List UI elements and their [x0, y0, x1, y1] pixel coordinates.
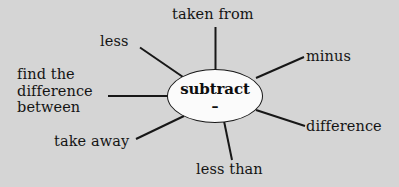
branch-label-taken-from: taken from [172, 6, 254, 22]
branch-label-difference: difference [306, 118, 382, 134]
connector-less-than [224, 121, 232, 160]
center-node: subtract – [167, 69, 263, 123]
branch-label-minus: minus [306, 48, 351, 64]
minus-sign-symbol: – [212, 100, 219, 112]
branch-label-less: less [100, 33, 129, 49]
connector-minus [256, 57, 304, 78]
branch-label-take-away: take away [54, 133, 129, 149]
center-word: subtract [180, 81, 250, 97]
branch-label-find-the-difference-between: find the difference between [17, 66, 112, 116]
connector-difference [256, 110, 305, 126]
center-text-wrap: subtract – [167, 69, 263, 123]
word-web-diagram: taken from less minus find the differenc… [0, 0, 399, 187]
branch-label-less-than: less than [196, 161, 263, 177]
